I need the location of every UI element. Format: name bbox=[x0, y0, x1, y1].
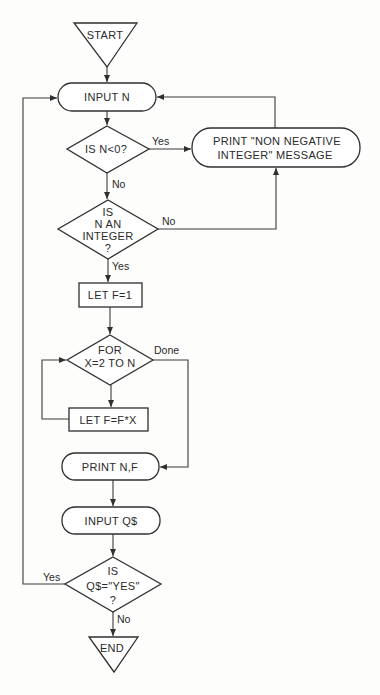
check-integer-line-1: IS bbox=[103, 206, 114, 218]
node-start: START bbox=[74, 23, 137, 67]
check-yes-line-1: IS bbox=[108, 565, 119, 577]
start-label: START bbox=[87, 29, 124, 41]
node-check-integer: IS N AN INTEGER ? bbox=[58, 200, 158, 259]
label-again-no: No bbox=[117, 613, 131, 625]
print-message-line-1: PRINT "NON NEGATIVE bbox=[213, 135, 341, 147]
let-f-label: LET F=1 bbox=[88, 289, 132, 301]
print-message-line-2: INTEGER" MESSAGE bbox=[217, 149, 332, 161]
node-check-negative: IS N<0? bbox=[67, 126, 149, 173]
let-ffx-label: LET F=F*X bbox=[79, 414, 137, 426]
node-input-n: INPUT N bbox=[58, 83, 156, 111]
node-end: END bbox=[89, 637, 138, 672]
node-print-nf: PRINT N,F bbox=[62, 453, 159, 480]
flowchart-canvas: START INPUT N IS N<0? PRINT "NON NEGATIV… bbox=[0, 0, 380, 695]
check-integer-line-2: N AN bbox=[95, 218, 122, 230]
label-negative-yes: Yes bbox=[152, 135, 169, 147]
for-loop-line-2: X=2 TO N bbox=[84, 357, 135, 369]
edge-message-to-input bbox=[157, 97, 275, 128]
label-for-done: Done bbox=[154, 344, 179, 356]
node-input-q: INPUT Q$ bbox=[62, 507, 160, 534]
for-loop-line-1: FOR bbox=[98, 344, 122, 356]
input-n-label: INPUT N bbox=[84, 91, 130, 103]
check-yes-line-3: ? bbox=[110, 594, 116, 606]
label-again-yes: Yes bbox=[43, 571, 60, 583]
print-nf-label: PRINT N,F bbox=[82, 461, 138, 473]
check-integer-line-4: ? bbox=[105, 242, 111, 254]
node-check-yes: IS Q$="YES" ? bbox=[65, 557, 161, 612]
edge-for-done bbox=[153, 360, 188, 467]
node-let-ffx: LET F=F*X bbox=[69, 408, 148, 431]
check-negative-label: IS N<0? bbox=[85, 143, 127, 155]
edge-again-yes bbox=[23, 98, 65, 584]
factorial-flowchart: START INPUT N IS N<0? PRINT "NON NEGATIV… bbox=[0, 0, 380, 695]
node-let-f: LET F=1 bbox=[79, 283, 142, 307]
input-q-label: INPUT Q$ bbox=[85, 515, 138, 527]
label-negative-no: No bbox=[112, 178, 126, 190]
edge-loop-back bbox=[42, 360, 69, 419]
label-integer-no: No bbox=[162, 215, 176, 227]
end-label: END bbox=[100, 642, 124, 654]
node-for-loop: FOR X=2 TO N bbox=[67, 335, 153, 385]
node-print-message: PRINT "NON NEGATIVE INTEGER" MESSAGE bbox=[192, 128, 360, 167]
check-yes-line-2: Q$="YES" bbox=[86, 580, 139, 592]
print-message-shape bbox=[192, 128, 360, 167]
label-integer-yes: Yes bbox=[112, 260, 129, 272]
edge-integer-no bbox=[158, 168, 276, 229]
check-integer-line-3: INTEGER bbox=[83, 230, 134, 242]
